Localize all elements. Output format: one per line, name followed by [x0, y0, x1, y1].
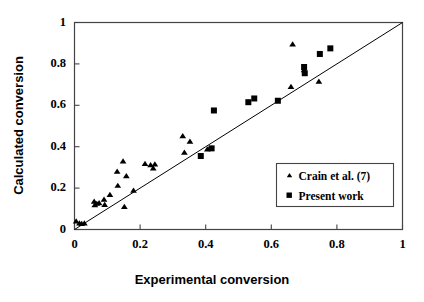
- x-axis-label: Experimental conversion: [0, 272, 424, 287]
- data-point-square: [275, 98, 281, 104]
- y-tick-label: 1: [26, 15, 66, 30]
- chart-figure: Crain et al. (7)Present work Experimenta…: [0, 0, 424, 302]
- data-point-square: [251, 95, 257, 101]
- x-tick-label: 0.4: [186, 237, 226, 252]
- data-point-square: [209, 145, 215, 151]
- y-tick-label: 0.4: [26, 139, 66, 154]
- x-tick-label: 0: [55, 237, 95, 252]
- legend: Crain et al. (7)Present work: [277, 164, 394, 207]
- x-tick-label: 1: [383, 237, 423, 252]
- data-point-square: [327, 45, 333, 51]
- data-point-square: [317, 51, 323, 57]
- y-tick-label: 0: [26, 222, 66, 237]
- data-point-square: [301, 64, 307, 70]
- y-tick-label: 0.2: [26, 180, 66, 195]
- x-tick-label: 0.8: [317, 237, 357, 252]
- y-tick-label: 0.6: [26, 97, 66, 112]
- data-point-square: [211, 107, 217, 113]
- x-tick-label: 0.2: [120, 237, 160, 252]
- legend-label: Crain et al. (7): [299, 170, 371, 183]
- data-point-square: [198, 153, 204, 159]
- legend-label: Present work: [299, 190, 365, 202]
- legend-marker-square: [287, 193, 292, 198]
- y-tick-label: 0.8: [26, 56, 66, 71]
- y-axis-label: Calculated conversion: [11, 20, 26, 232]
- data-point-square: [245, 99, 251, 105]
- x-tick-label: 0.6: [251, 237, 291, 252]
- data-point-square: [302, 70, 308, 76]
